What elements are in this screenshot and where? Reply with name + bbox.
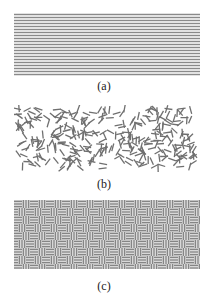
- caption-b: (b): [0, 177, 208, 191]
- caption-c: (c): [0, 279, 208, 293]
- caption-a: (a): [0, 79, 208, 93]
- panel-c-basket-weave: [14, 200, 200, 269]
- panel-a-horizontal-lines: [14, 13, 200, 76]
- panel-b-random-segments: [14, 105, 198, 172]
